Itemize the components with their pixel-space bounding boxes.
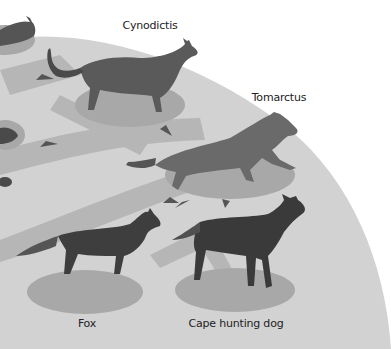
- label-cape-hunting-dog: Cape hunting dog: [189, 317, 284, 330]
- canid-evolution-diagram: Cynodictis Tomarctus Fox Cape hunting do…: [0, 0, 391, 349]
- label-tomarctus: Tomarctus: [252, 91, 307, 104]
- fox-ellipse: [27, 270, 143, 314]
- cape-dog-ellipse: [175, 268, 295, 312]
- label-cynodictis: Cynodictis: [122, 19, 177, 32]
- diagram-artwork: [0, 0, 391, 349]
- label-fox: Fox: [78, 317, 96, 330]
